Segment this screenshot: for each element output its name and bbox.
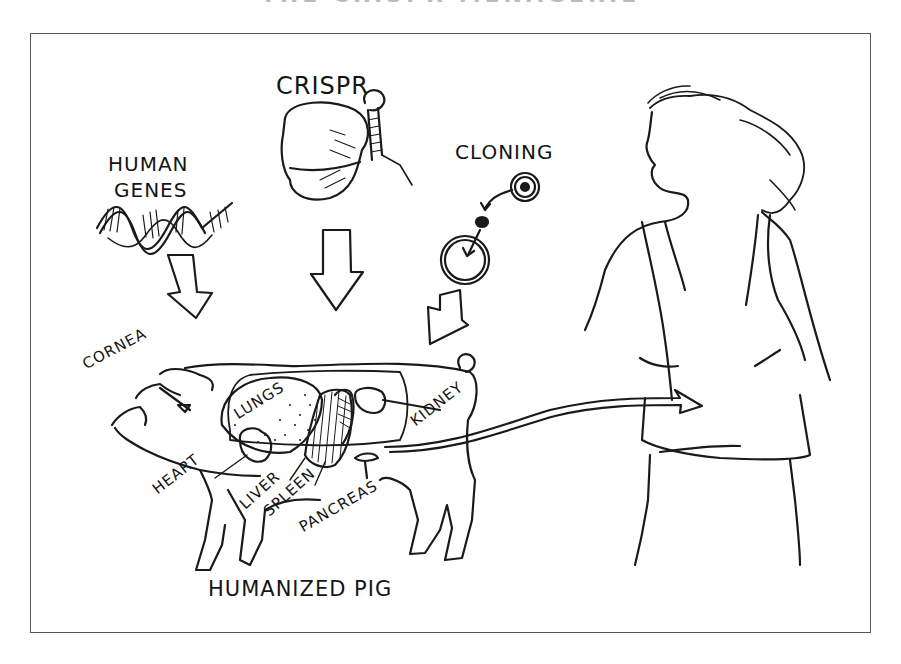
arrow-human-genes-down-icon bbox=[168, 255, 212, 318]
label-genes: GENES bbox=[114, 178, 187, 202]
label-human: HUMAN bbox=[108, 152, 189, 176]
cloning-cells-icon bbox=[441, 173, 539, 284]
pancreas-icon bbox=[355, 454, 378, 479]
pig-outline bbox=[112, 354, 477, 570]
arrow-crispr-down-icon bbox=[311, 230, 363, 310]
label-cloning: CLONING bbox=[455, 140, 553, 164]
pig-caption: HUMANIZED PIG bbox=[208, 577, 392, 601]
dna-helix-icon bbox=[97, 203, 232, 254]
woman-figure bbox=[585, 86, 830, 565]
arrow-cloning-down-icon bbox=[428, 290, 468, 344]
crispr-cas9-icon bbox=[282, 90, 412, 199]
label-crispr: CRISPR bbox=[276, 72, 369, 100]
